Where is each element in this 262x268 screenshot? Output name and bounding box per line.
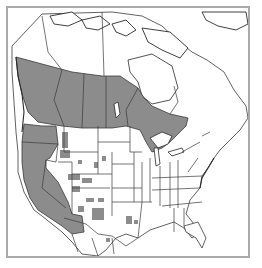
range-patch [62,132,68,148]
range-patch [78,160,82,164]
range-patch [68,174,80,180]
range-patch [98,198,104,202]
range-patch [92,208,104,220]
range-map [8,8,250,258]
greenland [202,12,248,30]
range-patch [106,238,110,242]
range-patch [72,186,80,192]
range-patch [102,156,106,161]
range-patch [94,162,98,168]
range-patch [82,178,92,183]
florida [184,222,206,248]
range-patch [78,206,84,212]
range-patch [126,216,132,224]
range-patch [86,198,94,202]
range-patch [60,150,70,158]
range-patch [134,220,138,224]
map-frame [6,6,250,258]
